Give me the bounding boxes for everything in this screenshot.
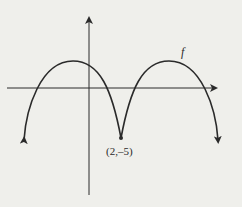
curve-right-arc bbox=[121, 61, 218, 140]
curve-left-arc bbox=[24, 61, 121, 140]
point-label: (2,–5) bbox=[106, 145, 133, 157]
function-label: f bbox=[181, 45, 184, 60]
function-graph: (2,–5) f bbox=[0, 0, 242, 207]
graph-canvas bbox=[0, 0, 242, 207]
cusp-point bbox=[119, 136, 123, 140]
